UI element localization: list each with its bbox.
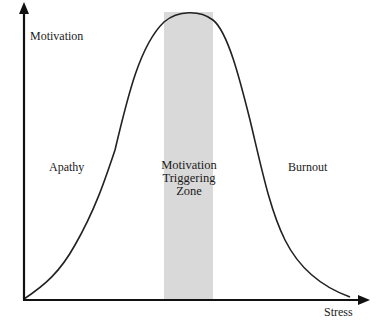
motivation-triggering-zone-band: [164, 12, 213, 299]
zone-label-line-3: Zone: [149, 185, 229, 198]
x-axis-label: Stress: [324, 306, 353, 319]
x-axis-arrow-icon: [358, 295, 370, 305]
y-axis-label: Motivation: [30, 30, 83, 43]
y-axis-arrow-icon: [19, 2, 29, 14]
apathy-label: Apathy: [49, 161, 84, 174]
zone-label: Motivation Triggering Zone: [149, 159, 229, 198]
burnout-label: Burnout: [288, 161, 327, 174]
